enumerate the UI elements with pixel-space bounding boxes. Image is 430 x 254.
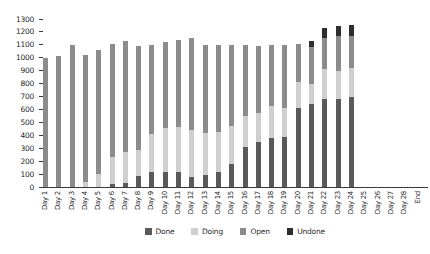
bar-segment-done [216,172,221,187]
bar-day-11 [176,40,181,187]
x-tick-label: Day 24 [347,191,356,223]
y-tick-label: 1200 [8,27,34,36]
bar-day-1 [43,58,48,187]
y-tick-label: 200 [8,157,34,166]
x-tick-label: Day 27 [387,191,396,223]
x-tick-label: Day 17 [254,191,263,223]
x-tick-label: Day 19 [280,191,289,223]
bar-day-5 [96,50,101,187]
legend-swatch-open [240,228,247,235]
legend-label: Open [250,227,269,236]
bar-segment-doing [136,150,141,176]
bar-segment-done [322,99,327,187]
bar-segment-open [56,56,61,187]
bar-day-24 [349,25,354,187]
x-axis-line [40,187,428,188]
bar-day-23 [336,26,341,187]
bar-day-20 [296,44,301,187]
bar-segment-open [269,45,274,106]
x-tick-label: Day 1 [41,191,50,223]
y-tick-label: 400 [8,131,34,140]
bar-segment-done [282,137,287,187]
x-tick-label: Day 20 [294,191,303,223]
bar-segment-undone [336,26,341,36]
bar-segment-doing [96,174,101,187]
legend-item-done: Done [145,227,174,236]
bar-segment-done [229,164,234,187]
bar-segment-doing [336,71,341,99]
bar-segment-done [189,177,194,187]
y-tick-label: 800 [8,79,34,88]
x-tick-label: End [414,191,423,223]
legend-item-undone: Undone [287,227,325,236]
y-tick-label: 700 [8,92,34,101]
bar-segment-doing [163,128,168,171]
x-tick-label: Day 8 [134,191,143,223]
legend-swatch-done [145,228,152,235]
y-tick-label: 600 [8,105,34,114]
bar-day-4 [83,55,88,187]
bar-segment-open [163,42,168,128]
x-tick-label: Day 15 [227,191,236,223]
legend-item-doing: Doing [191,227,222,236]
bar-segment-open [282,45,287,108]
y-tick-label: 300 [8,144,34,153]
bar-segment-doing [269,106,274,138]
bar-day-12 [189,38,194,187]
x-tick-label: Day 4 [81,191,90,223]
x-tick-label: Day 2 [54,191,63,223]
x-tick-label: Day 6 [108,191,117,223]
legend-item-open: Open [240,227,270,236]
bar-segment-done [269,138,274,187]
bar-segment-open [43,58,48,187]
x-tick-label: Day 25 [360,191,369,223]
y-tick-label: 100 [8,170,34,179]
bar-segment-done [176,172,181,187]
bar-segment-open [256,46,261,113]
bar-day-19 [282,45,287,187]
bar-day-10 [163,42,168,187]
bar-day-13 [203,45,208,187]
x-tick-label: Day 18 [267,191,276,223]
bar-day-7 [123,41,128,187]
bar-segment-done [256,142,261,187]
bar-segment-open [322,38,327,68]
bar-day-8 [136,46,141,187]
bar-segment-undone [322,28,327,38]
bar-segment-done [136,176,141,187]
y-tick-label: 500 [8,118,34,127]
bar-segment-done [163,172,168,188]
bar-day-15 [229,45,234,187]
bar-day-14 [216,45,221,187]
bar-segment-open [110,44,115,158]
bar-segment-done [149,172,154,187]
bar-day-3 [70,45,75,187]
bar-day-22 [322,28,327,187]
bar-segment-open [243,45,248,116]
y-tick-label: 1000 [8,53,34,62]
bar-segment-doing [322,69,327,99]
legend-label: Doing [202,227,223,236]
bar-segment-undone [349,25,354,36]
x-tick-label: Day 10 [161,191,170,223]
bar-segment-done [296,108,301,187]
bar-segment-open [70,45,75,187]
bar-segment-doing [203,133,208,174]
bar-segment-doing [243,116,248,147]
bar-segment-open [149,45,154,134]
bar-segment-open [123,41,128,152]
y-tick-label: 1300 [8,15,34,24]
bar-segment-open [216,45,221,132]
y-tick-label: 900 [8,66,34,75]
bar-segment-doing [216,132,221,172]
bar-day-9 [149,45,154,187]
bar-segment-doing [349,68,354,96]
bar-day-21 [309,41,314,187]
x-tick-label: Day 11 [174,191,183,223]
legend: DoneDoingOpenUndone [40,227,430,236]
bar-segment-open [96,50,101,174]
bar-segment-done [309,104,314,187]
x-tick-label: Day 28 [400,191,409,223]
x-tick-label: Day 9 [147,191,156,223]
bar-segment-open [336,36,341,70]
